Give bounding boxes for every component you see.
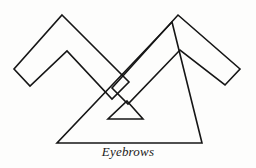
figure-container: Eyebrows [0,0,256,168]
line-drawing-canvas [0,0,256,168]
figure-caption: Eyebrows [0,144,256,160]
